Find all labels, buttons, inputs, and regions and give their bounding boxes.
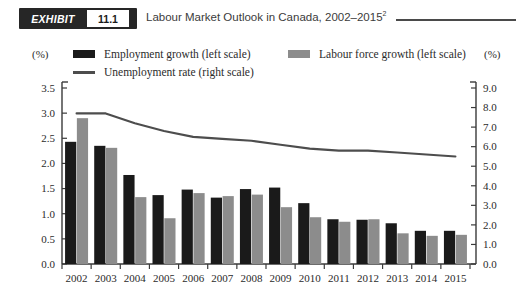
left-axis-tick-label: 0.0: [41, 258, 55, 270]
x-axis-year-label: 2003: [95, 272, 118, 284]
legend-label-employment-growth: Employment growth (left scale): [104, 48, 251, 60]
exhibit-number: 11.1: [98, 13, 118, 25]
bar-employment-growth: [444, 231, 455, 264]
legend-swatch-employment-growth: [73, 50, 95, 58]
exhibit-title-footnote-marker: 2: [383, 10, 387, 17]
exhibit-label: EXHIBIT: [19, 8, 87, 29]
left-axis-tick-label: 2.5: [41, 132, 55, 144]
right-axis-tick-label: 8.0: [483, 101, 497, 113]
x-axis-year-label: 2010: [299, 272, 322, 284]
legend-item-employment-growth: Employment growth (left scale): [73, 48, 251, 60]
right-axis-tick-label: 2.0: [483, 219, 497, 231]
left-axis-tick-label: 1.0: [41, 208, 55, 220]
left-axis-tick-label: 0.5: [41, 233, 55, 245]
exhibit-header: EXHIBIT 11.1 Labour Market Outlook in Ca…: [0, 0, 529, 38]
x-axis-year-label: 2006: [182, 272, 205, 284]
legend-label-unemployment-rate: Unemployment rate (right scale): [104, 66, 254, 78]
bar-employment-growth: [386, 223, 397, 264]
bar-employment-growth: [240, 189, 251, 264]
bar-labour-force-growth: [77, 118, 88, 264]
x-axis-year-label: 2009: [270, 272, 293, 284]
bar-labour-force-growth: [135, 197, 146, 264]
exhibit-number-box: 11.1: [87, 10, 129, 27]
bar-employment-growth: [123, 175, 134, 264]
bar-employment-growth: [415, 231, 426, 264]
right-axis-tick-label: 1.0: [483, 238, 497, 250]
bar-employment-growth: [298, 203, 309, 264]
bar-employment-growth: [182, 190, 193, 264]
x-axis-year-label: 2014: [415, 272, 438, 284]
x-axis-year-label: 2007: [211, 272, 234, 284]
bar-labour-force-growth: [456, 235, 467, 264]
right-axis-tick-label: 7.0: [483, 121, 497, 133]
bar-labour-force-growth: [310, 217, 321, 264]
right-axis-tick-label: 6.0: [483, 140, 497, 152]
header-rule: [396, 19, 516, 21]
exhibit-title-text: Labour Market Outlook in Canada, 2002–20…: [146, 11, 383, 23]
chart-legend: Employment growth (left scale) Labour fo…: [0, 46, 529, 82]
bar-employment-growth: [65, 142, 76, 264]
legend-label-labour-force-growth: Labour force growth (left scale): [319, 48, 466, 60]
left-axis-tick-label: 2.0: [41, 157, 55, 169]
bar-employment-growth: [153, 195, 164, 264]
bar-employment-growth: [269, 188, 280, 264]
legend-swatch-unemployment-rate: [73, 71, 95, 74]
bar-labour-force-growth: [281, 207, 292, 264]
right-axis-tick-label: 5.0: [483, 160, 497, 172]
bar-labour-force-growth: [368, 219, 379, 264]
x-axis-year-label: 2012: [357, 272, 379, 284]
bar-labour-force-growth: [427, 236, 438, 264]
bar-employment-growth: [357, 220, 368, 264]
bar-labour-force-growth: [252, 195, 263, 264]
right-axis-unit: (%): [484, 48, 501, 60]
exhibit-badge: EXHIBIT 11.1: [19, 8, 137, 29]
x-axis-year-label: 2005: [153, 272, 176, 284]
bar-labour-force-growth: [397, 233, 408, 264]
bar-employment-growth: [327, 219, 338, 264]
x-axis-year-label: 2011: [328, 272, 350, 284]
left-axis-tick-label: 3.0: [41, 107, 55, 119]
right-axis-tick-label: 4.0: [483, 180, 497, 192]
legend-item-unemployment-rate: Unemployment rate (right scale): [73, 66, 254, 78]
bar-labour-force-growth: [339, 222, 350, 264]
x-axis-year-label: 2013: [386, 272, 409, 284]
left-axis-unit: (%): [32, 48, 49, 60]
line-unemployment-rate: [77, 113, 456, 156]
x-axis-year-label: 2002: [66, 272, 88, 284]
x-axis-year-label: 2008: [240, 272, 263, 284]
right-axis-tick-label: 9.0: [483, 82, 497, 94]
x-axis-year-label: 2004: [124, 272, 147, 284]
left-axis-tick-label: 1.5: [41, 182, 55, 194]
bar-labour-force-growth: [193, 193, 204, 264]
bar-labour-force-growth: [164, 218, 175, 264]
bar-employment-growth: [211, 198, 222, 264]
exhibit-title: Labour Market Outlook in Canada, 2002–20…: [146, 10, 386, 23]
bar-employment-growth: [94, 146, 105, 264]
legend-swatch-labour-force-growth: [288, 50, 310, 58]
right-axis-tick-label: 0.0: [483, 258, 497, 270]
right-axis-tick-label: 3.0: [483, 199, 497, 211]
bar-labour-force-growth: [106, 148, 117, 264]
bar-labour-force-growth: [223, 196, 234, 264]
left-axis-tick-label: 3.5: [41, 82, 55, 94]
x-axis-year-label: 2015: [444, 272, 467, 284]
legend-item-labour-force-growth: Labour force growth (left scale): [288, 48, 466, 60]
